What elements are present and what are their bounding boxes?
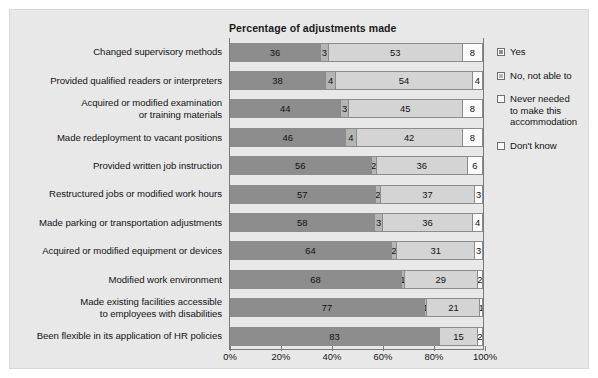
bar-value-label: 54 xyxy=(399,75,409,86)
bar-segment: 4 xyxy=(326,71,336,90)
category-label: Been flexible in its application of HR p… xyxy=(37,330,222,342)
plot-area: 3635383845444434584644285623665723735833… xyxy=(229,38,484,350)
bar-segment: 4 xyxy=(346,128,356,147)
bar-value-label: 2 xyxy=(372,160,377,171)
category-label: Made existing facilities accessibleto em… xyxy=(80,296,222,319)
bar-value-label: 42 xyxy=(404,132,414,143)
bar-value-label: 3 xyxy=(342,103,347,114)
category-label-row: Restructured jobs or modified work hours xyxy=(10,180,228,208)
bar-value-label: 4 xyxy=(475,75,480,86)
stacked-bar: 464428 xyxy=(230,128,483,147)
legend-item[interactable]: Don't know xyxy=(497,140,597,152)
stacked-bar: 83152 xyxy=(230,327,483,346)
bar-segment: 15 xyxy=(440,327,478,346)
bar-segment: 77 xyxy=(230,298,425,317)
bar-segment: 3 xyxy=(321,43,329,62)
bar-segment: 45 xyxy=(349,99,463,118)
x-axis-tick-label: 100% xyxy=(473,351,497,362)
legend-item[interactable]: No, not able to xyxy=(497,70,597,82)
table-row: 443458 xyxy=(230,95,483,123)
bar-segment: 8 xyxy=(463,128,483,147)
bar-segment: 42 xyxy=(357,128,463,147)
category-label-row: Acquired or modified equipment or device… xyxy=(10,237,228,265)
bar-value-label: 1 xyxy=(480,302,483,313)
bar-value-label: 2 xyxy=(478,331,483,342)
bar-value-label: 36 xyxy=(422,217,432,228)
bar-segment: 68 xyxy=(230,270,402,289)
category-axis-labels: Changed supervisory methodsProvided qual… xyxy=(10,38,228,350)
category-label: Acquired or modified examinationor train… xyxy=(81,97,222,120)
bar-value-label: 8 xyxy=(470,47,475,58)
x-axis-tick-label: 80% xyxy=(425,351,444,362)
bar-segment: 36 xyxy=(377,156,468,175)
bar-segment: 37 xyxy=(381,185,476,204)
bar-segment: 64 xyxy=(230,241,392,260)
bar-segment: 31 xyxy=(397,241,475,260)
legend-item[interactable]: Yes xyxy=(497,46,597,58)
bar-value-label: 37 xyxy=(422,189,432,200)
bar-value-label: 2 xyxy=(376,189,381,200)
bar-value-label: 3 xyxy=(322,47,327,58)
stacked-bar: 443458 xyxy=(230,99,483,118)
bar-segment: 36 xyxy=(230,43,321,62)
x-axis-tick-label: 40% xyxy=(323,351,342,362)
category-label: Restructured jobs or modified work hours xyxy=(49,188,222,200)
category-label: Provided written job instruction xyxy=(93,160,222,172)
bar-segment: 29 xyxy=(405,270,478,289)
category-label-row: Made redeployment to vacant positions xyxy=(10,123,228,151)
table-row: 384544 xyxy=(230,66,483,94)
bar-value-label: 6 xyxy=(472,160,477,171)
bar-value-label: 53 xyxy=(390,47,400,58)
bar-segment: 57 xyxy=(230,185,376,204)
bar-value-label: 4 xyxy=(475,217,480,228)
bar-value-label: 77 xyxy=(322,302,332,313)
legend-item[interactable]: Never neededto make thisaccommodation xyxy=(497,93,597,128)
bar-segment: 21 xyxy=(427,298,480,317)
category-label-row: Changed supervisory methods xyxy=(10,38,228,66)
bar-value-label: 3 xyxy=(476,245,481,256)
bar-segment: 83 xyxy=(230,327,440,346)
bar-value-label: 57 xyxy=(297,189,307,200)
bar-segment: 2 xyxy=(478,327,483,346)
category-label: Made redeployment to vacant positions xyxy=(57,132,222,144)
stacked-bar: 642313 xyxy=(230,241,483,260)
bar-segment: 46 xyxy=(230,128,346,147)
bar-segment: 2 xyxy=(478,270,483,289)
bar-segment: 56 xyxy=(230,156,372,175)
stacked-bar: 384544 xyxy=(230,71,483,90)
table-row: 572373 xyxy=(230,180,483,208)
category-label-row: Provided written job instruction xyxy=(10,152,228,180)
category-label-row: Modified work environment xyxy=(10,265,228,293)
x-axis-tick-label: 60% xyxy=(374,351,393,362)
stacked-bar: 572373 xyxy=(230,185,483,204)
table-row: 363538 xyxy=(230,38,483,66)
bar-value-label: 29 xyxy=(436,274,446,285)
bar-segment: 44 xyxy=(230,99,341,118)
bar-value-label: 2 xyxy=(392,245,397,256)
stacked-bar: 681292 xyxy=(230,270,483,289)
category-label-row: Made parking or transportation adjustmen… xyxy=(10,208,228,236)
legend-swatch-icon xyxy=(497,142,505,150)
bar-value-label: 4 xyxy=(348,132,353,143)
x-axis-ticks: 0%20%40%60%80%100% xyxy=(229,351,485,365)
table-row: 681292 xyxy=(230,265,483,293)
bar-value-label: 31 xyxy=(430,245,440,256)
bar-value-label: 3 xyxy=(376,217,381,228)
category-label: Made parking or transportation adjustmen… xyxy=(39,217,222,229)
bar-segment: 54 xyxy=(336,71,473,90)
legend-label: No, not able to xyxy=(510,70,572,82)
bar-value-label: 45 xyxy=(400,103,410,114)
bar-value-label: 3 xyxy=(476,189,481,200)
legend-label: Don't know xyxy=(510,140,557,152)
table-row: 83152 xyxy=(230,322,483,350)
legend-swatch-icon xyxy=(497,95,505,103)
category-label-row: Made existing facilities accessibleto em… xyxy=(10,294,228,322)
bar-value-label: 15 xyxy=(453,331,463,342)
bar-segment: 3 xyxy=(475,185,483,204)
stacked-bar: 583364 xyxy=(230,213,483,232)
table-row: 771211 xyxy=(230,294,483,322)
bar-value-label: 8 xyxy=(470,132,475,143)
bar-segment: 3 xyxy=(475,241,483,260)
stacked-bar: 363538 xyxy=(230,43,483,62)
bar-value-label: 64 xyxy=(305,245,315,256)
